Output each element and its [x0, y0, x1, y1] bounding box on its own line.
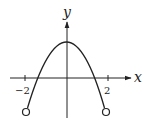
tick-label-2: 2 — [104, 85, 110, 96]
tick-label-minus-2: −2 — [15, 85, 30, 96]
parabola-curve — [28, 42, 105, 108]
y-axis-label: y — [62, 4, 72, 20]
open-endpoint-right — [103, 109, 110, 116]
open-endpoint-left — [23, 109, 30, 116]
graph-canvas: x y −2 2 — [0, 0, 147, 126]
x-axis-label: x — [134, 69, 142, 85]
